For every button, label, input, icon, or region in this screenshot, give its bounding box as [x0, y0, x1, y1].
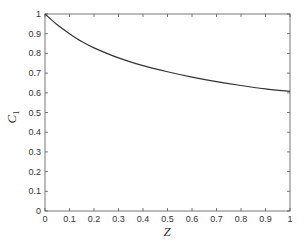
x-tick-label: 0.7	[210, 214, 223, 224]
y-tick-label: 0	[36, 206, 41, 216]
svg-text:C1: C1	[4, 110, 21, 123]
y-tick-label: 0.8	[28, 48, 41, 58]
x-tick-label: 0.4	[137, 214, 150, 224]
y-tick-label: 0.5	[28, 108, 41, 118]
y-tick-label: 0.9	[28, 29, 41, 39]
x-axis-label: Z	[163, 224, 171, 239]
y-tick-label: 0.6	[28, 88, 41, 98]
y-tick-label: 0.2	[28, 167, 41, 177]
x-tick-label: 0.3	[112, 214, 125, 224]
y-tick-label: 0.4	[28, 127, 41, 137]
x-tick-label: 1	[287, 214, 292, 224]
y-axis-label: C1	[4, 110, 21, 123]
x-tick-label: 0.9	[259, 214, 272, 224]
y-tick-label: 0.1	[28, 186, 41, 196]
x-tick-label: 0.1	[63, 214, 76, 224]
y-tick-label: 1	[36, 9, 41, 19]
x-tick-label: 0.6	[186, 214, 199, 224]
y-tick-label: 0.7	[28, 68, 41, 78]
x-tick-label: 0.2	[88, 214, 101, 224]
x-tick-label: 0.5	[161, 214, 174, 224]
x-tick-label: 0.8	[235, 214, 248, 224]
x-tick-label: 0	[42, 214, 47, 224]
y-tick-label: 0.3	[28, 147, 41, 157]
plot-area	[45, 14, 290, 211]
line-chart: 00.10.20.30.40.50.60.70.80.91 00.10.20.3…	[0, 0, 304, 246]
